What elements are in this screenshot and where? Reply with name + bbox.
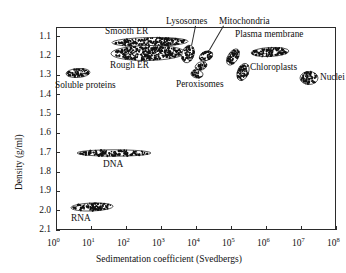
y-axis-title: Density (g/ml) bbox=[14, 134, 24, 190]
cluster-label-chloroplasts: Chloroplasts bbox=[250, 62, 297, 72]
cluster-label-plasma-membrane: Plasma membrane bbox=[235, 29, 303, 39]
data-cluster bbox=[0, 0, 346, 273]
cluster-label-peroxisomes: Peroxisomes bbox=[176, 79, 224, 89]
sedimentation-density-chart: 1.11.21.31.41.51.61.71.81.92.02.11001011… bbox=[0, 0, 346, 273]
x-axis-title: Sedimentation coefficient (Svedbergs) bbox=[96, 254, 242, 264]
cluster-label-rna: RNA bbox=[71, 213, 91, 223]
cluster-label-smooth-er: Smooth ER bbox=[105, 26, 148, 36]
cluster-label-mitochondria: Mitochondria bbox=[219, 16, 270, 26]
cluster-label-nuclei: Nuclei bbox=[320, 72, 345, 82]
cluster-label-soluble-proteins: Soluble proteins bbox=[55, 80, 116, 90]
cluster-label-dna: DNA bbox=[103, 159, 123, 169]
cluster-label-rough-er: Rough ER bbox=[110, 60, 149, 70]
cluster-label-lysosomes: Lysosomes bbox=[166, 16, 207, 26]
